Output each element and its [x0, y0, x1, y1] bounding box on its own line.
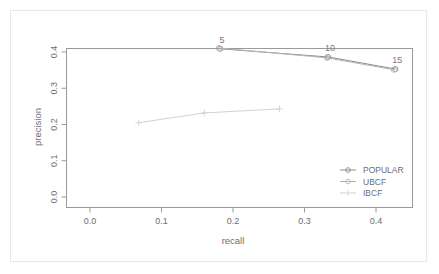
x-tick-label-0: 0.0	[84, 216, 97, 226]
y-tick-label-4: 0.4	[49, 46, 59, 59]
y-axis: 0.0 0.1 0.2 0.3 0.4	[49, 46, 66, 204]
chart-canvas: 0.0 0.1 0.2 0.3 0.4 precision 0.0 0.1 0.…	[0, 0, 439, 274]
x-tick-label-4: 0.4	[370, 216, 383, 226]
legend-label-ubcf: UBCF	[363, 177, 386, 187]
series-layer	[135, 45, 398, 126]
legend[interactable]: POPULARUBCFIBCF	[335, 160, 411, 200]
point-label-15: 15	[392, 55, 402, 65]
y-tick-label-3: 0.3	[49, 82, 59, 95]
legend-label-popular: POPULAR	[363, 165, 404, 175]
x-axis-title: recall	[222, 235, 245, 246]
x-tick-label-3: 0.3	[298, 216, 311, 226]
point-label-10: 10	[325, 43, 335, 53]
series-ubcf	[216, 45, 396, 72]
x-tick-label-2: 0.2	[227, 216, 240, 226]
precision-recall-chart: 0.0 0.1 0.2 0.3 0.4 precision 0.0 0.1 0.…	[0, 0, 439, 274]
series-line-ubcf	[219, 48, 394, 70]
legend-label-ibcf: IBCF	[363, 188, 382, 198]
y-tick-label-0: 0.0	[49, 191, 59, 204]
series-line-popular	[220, 49, 395, 69]
x-axis: 0.0 0.1 0.2 0.3 0.4	[84, 208, 383, 227]
y-tick-label-1: 0.1	[49, 154, 59, 167]
series-line-ibcf	[139, 109, 280, 123]
y-tick-label-2: 0.2	[49, 118, 59, 131]
point-label-layer: 51015	[220, 35, 403, 65]
point-label-5: 5	[220, 35, 225, 45]
series-ibcf	[135, 106, 283, 127]
y-axis-title: precision	[32, 108, 43, 146]
x-tick-label-1: 0.1	[155, 216, 168, 226]
